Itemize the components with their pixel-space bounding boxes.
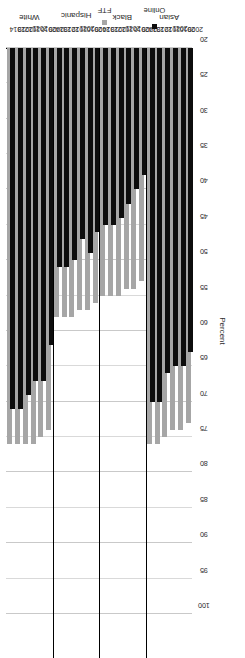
tick-label-25: 25 xyxy=(200,70,208,79)
bar-online-black-2014 xyxy=(103,48,108,225)
bar-online-white-2012 xyxy=(26,48,31,395)
legend-item-ftf[interactable]: FTF xyxy=(100,0,109,28)
bar-online-asian-2012 xyxy=(165,48,170,373)
tick-label-85: 85 xyxy=(200,495,208,504)
bar-online-asian-2009 xyxy=(188,48,193,352)
bar-online-black-2013 xyxy=(111,48,116,225)
chart-legend: OnlineFTF xyxy=(0,0,245,28)
tick-label-75: 75 xyxy=(200,424,208,433)
group-separator-hispanic xyxy=(53,48,54,658)
bar-online-asian-2013 xyxy=(157,48,162,402)
tick-label-20: 20 xyxy=(200,35,208,44)
bar-online-asian-2010 xyxy=(181,48,186,366)
bar-online-white-2013 xyxy=(18,48,23,409)
tick-label-40: 40 xyxy=(200,177,208,186)
tick-label-55: 55 xyxy=(200,283,208,292)
bar-online-asian-2011 xyxy=(173,48,178,366)
tick-label-50: 50 xyxy=(200,247,208,256)
legend-label-ftf: FTF xyxy=(98,6,112,15)
tick-label-60: 60 xyxy=(200,318,208,327)
bar-online-black-2012 xyxy=(119,48,124,218)
tick-label-65: 65 xyxy=(200,353,208,362)
tick-label-90: 90 xyxy=(200,530,208,539)
bar-online-white-2010 xyxy=(41,48,46,381)
bar-online-white-2011 xyxy=(33,48,38,381)
tick-label-100: 100 xyxy=(198,601,209,610)
legend-item-online[interactable]: Online xyxy=(150,0,159,28)
legend-label-online: Online xyxy=(144,6,166,15)
bar-online-black-2010 xyxy=(134,48,139,190)
bar-online-hispanic-2011 xyxy=(80,48,85,239)
bar-online-white-2014 xyxy=(10,48,15,409)
tick-label-70: 70 xyxy=(200,389,208,398)
legend-swatch-online-icon xyxy=(152,24,157,29)
tick-label-30: 30 xyxy=(200,106,208,115)
legend-swatch-ftf-icon xyxy=(102,20,107,25)
bar-online-hispanic-2014 xyxy=(57,48,62,267)
bar-online-hispanic-2012 xyxy=(72,48,77,260)
bar-online-black-2011 xyxy=(126,48,131,204)
tick-label-80: 80 xyxy=(200,460,208,469)
bar-online-hispanic-2010 xyxy=(88,48,93,253)
plot-area xyxy=(6,48,192,614)
tick-label-95: 95 xyxy=(200,566,208,575)
bar-online-asian-2014 xyxy=(150,48,155,402)
tick-label-35: 35 xyxy=(200,141,208,150)
value-axis-title: Percent xyxy=(218,48,227,614)
group-separator-black xyxy=(99,48,100,658)
group-separator-asian xyxy=(146,48,147,658)
bar-online-hispanic-2013 xyxy=(64,48,69,267)
tick-label-45: 45 xyxy=(200,212,208,221)
